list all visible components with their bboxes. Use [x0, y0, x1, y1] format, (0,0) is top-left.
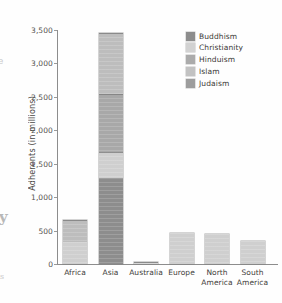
scan-artifact-left-middle: y — [0, 208, 8, 226]
y-tick-mark — [54, 130, 57, 131]
scan-artifact-left-top: e — [0, 56, 3, 66]
legend-label: Christianity — [199, 43, 243, 52]
x-tick-label-north-america: North America — [199, 268, 235, 287]
y-axis-line — [57, 30, 58, 264]
y-tick-label: 2,000 — [31, 126, 53, 135]
legend-swatch-icon — [186, 67, 195, 76]
legend-swatch-icon — [186, 55, 195, 64]
plot-area: 3,5003,0002,5002,0001,5001,0005000 Afric… — [57, 28, 279, 266]
y-tick-label: 3,500 — [31, 26, 53, 35]
chart-figure: e y s Adherents (in millions) 3,5003,000… — [0, 0, 282, 303]
x-tick-label-europe: Europe — [164, 268, 200, 278]
y-tick-label: 1,000 — [31, 193, 53, 202]
bar-segment-islam — [99, 33, 123, 93]
y-tick-label: 2,500 — [31, 92, 53, 101]
legend-label: Buddhism — [199, 32, 237, 41]
bar-segment-christianity — [63, 242, 87, 264]
legend-item-hinduism: Hinduism — [186, 54, 243, 65]
bar-africa — [63, 220, 87, 264]
legend-swatch-icon — [186, 32, 195, 41]
x-tick-label-asia: Asia — [93, 268, 129, 278]
x-tick-label-africa: Africa — [57, 268, 93, 278]
y-tick-label: 1,500 — [31, 159, 53, 168]
bar-segment-islam — [63, 220, 87, 242]
x-tick-label-australia: Australia — [128, 268, 164, 278]
x-tick-label-south-america: South America — [235, 268, 271, 287]
bar-south-america — [241, 241, 265, 264]
legend-item-buddhism: Buddhism — [186, 31, 243, 42]
legend-item-islam: Islam — [186, 66, 243, 77]
y-tick-label: 3,000 — [31, 59, 53, 68]
y-tick-mark — [54, 231, 57, 232]
scan-artifact-left-bottom: s — [0, 272, 4, 281]
y-axis-title: Adherents (in millions) — [28, 96, 37, 191]
bar-asia — [99, 33, 123, 264]
y-tick-mark — [54, 164, 57, 165]
bar-segment-christianity — [99, 152, 123, 179]
bar-segment-christianity — [170, 233, 194, 264]
y-tick-mark — [54, 30, 57, 31]
legend-swatch-icon — [186, 79, 195, 88]
legend-item-judaism: Judaism — [186, 78, 243, 89]
legend-label: Judaism — [199, 79, 229, 88]
bar-segment-christianity — [134, 263, 158, 264]
bar-europe — [170, 233, 194, 264]
chart-legend: BuddhismChristianityHinduismIslamJudaism — [186, 31, 243, 88]
x-axis-line — [57, 264, 278, 265]
y-tick-mark — [54, 264, 57, 265]
y-tick-label: 0 — [48, 260, 53, 269]
legend-label: Hinduism — [199, 55, 235, 64]
bar-segment-islam — [134, 262, 158, 263]
legend-item-christianity: Christianity — [186, 43, 243, 54]
bar-north-america — [205, 234, 229, 264]
y-tick-mark — [54, 197, 57, 198]
y-tick-label: 500 — [38, 226, 53, 235]
y-tick-mark — [54, 97, 57, 98]
legend-label: Islam — [199, 67, 220, 76]
bar-segment-buddhism — [99, 178, 123, 264]
bar-australia — [134, 262, 158, 264]
legend-swatch-icon — [186, 43, 195, 52]
bar-segment-hinduism — [99, 94, 123, 152]
bar-segment-christianity — [241, 241, 265, 264]
y-tick-mark — [54, 63, 57, 64]
bar-segment-christianity — [205, 234, 229, 264]
